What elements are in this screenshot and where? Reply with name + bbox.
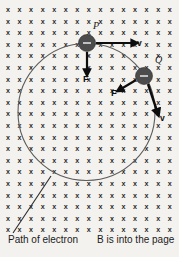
path-of-electron-caption: Path of electron bbox=[8, 234, 78, 245]
physics-diagram-electron-in-magnetic-field: xxxxxxxxxxxxxxxxxxxxxxxxxxxxxxxxxxxxxxxx… bbox=[0, 0, 179, 257]
field-direction-caption: B is into the page bbox=[97, 234, 175, 245]
caption-layer: Path of electron B is into the page bbox=[0, 0, 179, 257]
field-direction-text: is into the page bbox=[104, 234, 175, 245]
